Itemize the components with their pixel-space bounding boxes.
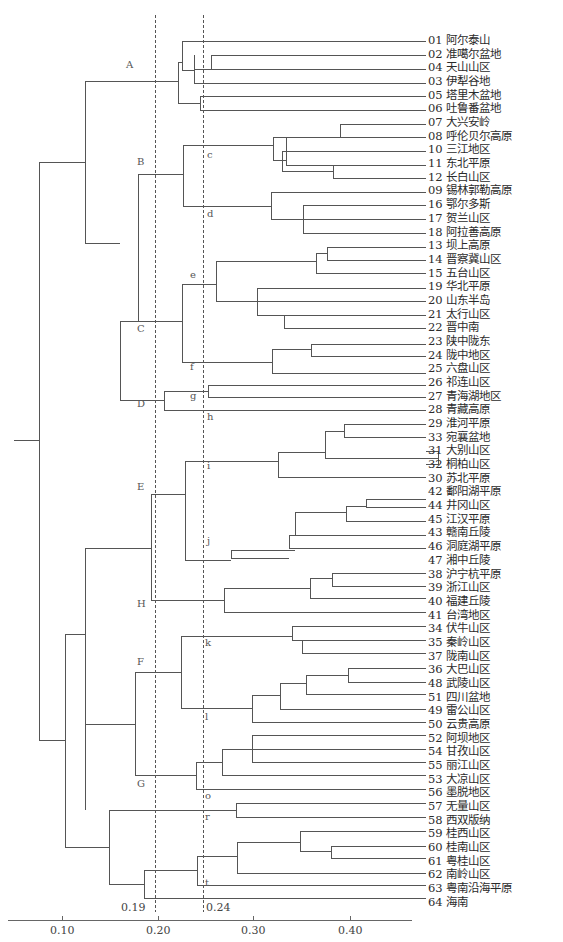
leaf-label: 19 华北平原 (428, 280, 490, 293)
cluster-label: c (207, 149, 213, 160)
leaf-label: 02 准噶尔盆地 (428, 48, 501, 61)
cluster-label: F (137, 656, 144, 667)
leaf-label: 55 丽江山区 (428, 759, 490, 772)
leaf-label: 26 祁连山区 (428, 376, 490, 389)
leaf-label: 10 三江地区 (428, 143, 490, 156)
leaf-label: 23 陕中陇东 (428, 335, 490, 348)
cluster-label: j (207, 535, 210, 546)
leaf-label: 14 晋察冀山区 (428, 253, 501, 266)
cluster-label: h (207, 411, 213, 422)
dendrogram-branches (14, 41, 438, 898)
leaf-label: 50 云贵高原 (428, 718, 490, 731)
leaf-label: 37 陇南山区 (428, 650, 490, 663)
leaf-label: 09 锡林郭勒高原 (428, 184, 512, 197)
leaf-label: 57 无量山区 (428, 800, 490, 813)
leaf-label: 51 四川盆地 (428, 691, 490, 704)
cut-label-024: 0.24 (206, 901, 231, 914)
leaf-label: 25 六盘山区 (428, 362, 490, 375)
leaf-label: 15 五台山区 (428, 267, 490, 280)
cluster-label: k (205, 637, 211, 648)
cluster-label: l (205, 711, 208, 722)
leaf-label: 35 秦岭山区 (428, 636, 490, 649)
leaf-label: 24 陇中地区 (428, 349, 490, 362)
leaf-label: 12 长白山区 (428, 171, 490, 184)
cluster-label: d (207, 208, 213, 219)
cluster-label: B (137, 156, 144, 167)
leaf-label: 38 沪宁杭平原 (428, 568, 501, 581)
leaf-label: 44 井冈山区 (428, 499, 490, 512)
cluster-label: G (137, 778, 145, 789)
leaf-label: 21 太行山区 (428, 308, 490, 321)
leaf-label: 64 海南 (428, 896, 468, 909)
leaf-label: 56 墨脱地区 (428, 786, 490, 799)
leaf-label: 03 伊犁谷地 (428, 75, 490, 88)
cluster-label: C (137, 323, 145, 334)
leaf-label: 11 东北平原 (428, 157, 490, 170)
leaf-label: 58 西双版纳 (428, 814, 490, 827)
leaf-label: 59 桂西山区 (428, 827, 490, 840)
leaf-label: 08 呼伦贝尔高原 (428, 130, 512, 143)
leaf-label: 61 粤桂山区 (428, 855, 490, 868)
leaf-label: 46 洞庭湖平原 (428, 540, 501, 553)
cluster-label: o (205, 790, 211, 801)
leaf-label: 20 山东半岛 (428, 294, 490, 307)
leaf-label: 45 江汉平原 (428, 513, 490, 526)
cluster-label: e (190, 269, 196, 280)
leaf-label: 30 苏北平原 (428, 472, 490, 485)
leaf-label: 48 武陵山区 (428, 677, 490, 690)
leaf-label: 28 青藏高原 (428, 403, 490, 416)
leaf-label: 34 伏牛山区 (428, 622, 490, 635)
x-tick-030: 0.30 (241, 924, 266, 937)
leaf-label: 39 浙江山区 (428, 581, 490, 594)
cluster-label: E (137, 481, 144, 492)
leaf-label: 32 桐柏山区 (428, 458, 490, 471)
leaf-label: 05 塔里木盆地 (428, 89, 501, 102)
leaf-label: 41 台湾地区 (428, 609, 490, 622)
leaf-label: 60 桂南山区 (428, 841, 490, 854)
leaf-label: 04 天山山区 (428, 61, 490, 74)
leaf-label: 54 甘孜山区 (428, 745, 490, 758)
leaf-label: 29 淮河平原 (428, 417, 490, 430)
x-tick-020: 0.20 (146, 924, 171, 937)
leaf-label: 36 大巴山区 (428, 663, 490, 676)
leaf-label: 52 阿坝地区 (428, 732, 490, 745)
leaf-label: 40 福建丘陵 (428, 595, 490, 608)
cluster-label: r (205, 811, 210, 822)
cluster-label: i (207, 460, 210, 471)
leaf-label: 42 鄱阳湖平原 (428, 485, 501, 498)
x-axis (8, 916, 412, 920)
cut-label-019: 0.19 (121, 901, 146, 914)
leaf-label: 31 大别山区 (428, 444, 490, 457)
cluster-label: g (190, 390, 196, 401)
leaf-label: 53 大凉山区 (428, 773, 490, 786)
leaf-label: 22 晋中南 (428, 321, 479, 334)
leaf-label: 47 湘中丘陵 (428, 554, 490, 567)
leaf-label: 63 粤南沿海平原 (428, 882, 512, 895)
leaf-label: 06 吐鲁番盆地 (428, 102, 501, 115)
leaf-label: 16 鄂尔多斯 (428, 198, 490, 211)
cluster-label: A (126, 59, 133, 70)
cluster-label: D (137, 398, 145, 409)
leaf-label: 27 青海湖地区 (428, 390, 501, 403)
leaf-label: 01 阿尔泰山 (428, 34, 490, 47)
cluster-label: f (190, 361, 194, 372)
cluster-label: t (205, 877, 209, 888)
leaf-label: 07 大兴安岭 (428, 116, 490, 129)
leaf-label: 49 雷公山区 (428, 704, 490, 717)
leaf-label: 13 坝上高原 (428, 239, 490, 252)
leaf-label: 18 阿拉善高原 (428, 226, 501, 239)
leaf-label: 17 贺兰山区 (428, 212, 490, 225)
x-tick-040: 0.40 (338, 924, 363, 937)
cluster-label: H (137, 598, 146, 609)
leaf-label: 33 宛襄盆地 (428, 431, 490, 444)
leaf-label: 43 赣南丘陵 (428, 526, 490, 539)
x-tick-010: 0.10 (50, 924, 75, 937)
leaf-label: 62 南岭山区 (428, 868, 490, 881)
